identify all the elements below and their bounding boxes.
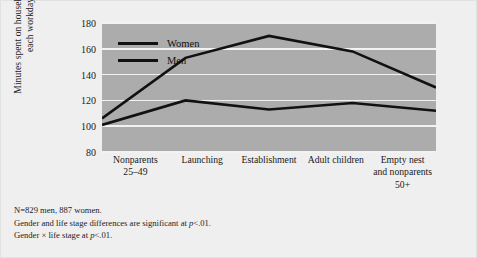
footnote-sample-size: N=829 men, 887 women. xyxy=(14,204,211,217)
chart-figure: Minutes spent on household chores each w… xyxy=(0,0,477,258)
y-axis-tick-label: 160 xyxy=(81,43,96,54)
legend-label-women: Women xyxy=(167,38,199,49)
x-axis-tick-label-line: 25–49 xyxy=(102,166,169,178)
chart-footnotes: N=829 men, 887 women. Gender and life st… xyxy=(14,204,211,242)
x-axis-tick-label-line: Launching xyxy=(169,154,236,166)
x-axis-tick-label: Nonparents25–49 xyxy=(102,154,169,191)
legend-item-women: Women xyxy=(118,35,199,52)
y-axis-title: Minutes spent on household chores each w… xyxy=(12,0,40,98)
chart-legend: Women Men xyxy=(118,35,199,69)
footnote-significance-main: Gender and life stage differences are si… xyxy=(14,217,211,230)
x-axis-tick-label: Adult children xyxy=(302,154,369,191)
x-axis-tick-label: Establishment xyxy=(236,154,303,191)
legend-item-men: Men xyxy=(118,52,199,69)
x-axis-tick-labels: Nonparents25–49LaunchingEstablishmentAdu… xyxy=(102,154,436,191)
series-line-men xyxy=(102,100,436,125)
x-axis-tick-label-line: 50+ xyxy=(369,179,436,191)
y-axis-tick-label: 180 xyxy=(81,18,96,29)
y-axis-tick-label: 100 xyxy=(81,121,96,132)
legend-label-men: Men xyxy=(167,55,186,66)
x-axis-tick-label-line: Empty nest xyxy=(369,154,436,166)
footnote-text: Gender and life stage differences are si… xyxy=(14,218,189,228)
x-axis-tick-label-line: and nonparents xyxy=(369,166,436,178)
legend-swatch-men xyxy=(118,59,158,62)
x-axis-tick-label: Launching xyxy=(169,154,236,191)
x-axis-tick-label-line: Adult children xyxy=(302,154,369,166)
y-axis-tick-label: 140 xyxy=(81,69,96,80)
y-axis-tick-label: 80 xyxy=(86,147,96,158)
plot-area-wrapper: 80100120140160180 Women Men xyxy=(102,23,436,152)
x-axis-tick-label-line: Establishment xyxy=(236,154,303,166)
x-axis-tick-label: Empty nestand nonparents50+ xyxy=(369,154,436,191)
y-axis-tick-label: 120 xyxy=(81,95,96,106)
footnote-p-value: <.01. xyxy=(95,230,113,240)
footnote-significance-interaction: Gender × life stage at p<.01. xyxy=(14,229,211,242)
x-axis-tick-label-line: Nonparents xyxy=(102,154,169,166)
footnote-text: Gender × life stage at xyxy=(14,230,90,240)
footnote-p-value: <.01. xyxy=(193,218,211,228)
legend-swatch-women xyxy=(118,42,158,45)
